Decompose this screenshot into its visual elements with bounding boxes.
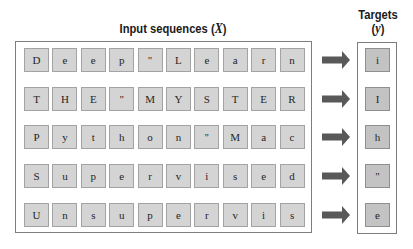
targets-title-variable-line: (y): [350, 22, 407, 36]
input-char-cell: r: [194, 203, 219, 227]
input-char-cell: n: [52, 203, 77, 227]
target-rows: iIh''e: [365, 48, 396, 227]
input-char-cell: e: [194, 48, 219, 72]
input-sequence-row: Deep''Learn: [24, 48, 305, 72]
input-sequence-row: Supervised: [24, 164, 305, 188]
input-char-cell: '': [109, 87, 134, 111]
input-char-cell: p: [138, 203, 163, 227]
input-sequences-box: Deep''LearnTHE''MYSTERPython''MacSupervi…: [15, 41, 312, 233]
input-char-cell: U: [24, 203, 49, 227]
input-char-cell: S: [24, 164, 49, 188]
input-sequence-rows: Deep''LearnTHE''MYSTERPython''MacSupervi…: [24, 48, 305, 227]
input-char-cell: v: [223, 203, 248, 227]
input-char-cell: r: [138, 164, 163, 188]
input-sequence-row: Python''Mac: [24, 125, 305, 149]
input-char-cell: D: [24, 48, 49, 72]
input-char-cell: L: [166, 48, 191, 72]
input-char-cell: M: [138, 87, 163, 111]
input-char-cell: e: [81, 48, 106, 72]
input-char-cell: E: [81, 87, 106, 111]
right-arrow-icon: [322, 167, 350, 185]
target-row: '': [365, 164, 396, 188]
right-arrow-icon: [322, 90, 350, 108]
input-sequences-title: Input sequences (X): [106, 21, 240, 37]
input-char-cell: t: [81, 125, 106, 149]
input-title-prefix: Input sequences (: [120, 21, 215, 36]
input-char-cell: c: [280, 125, 305, 149]
target-char-cell: I: [365, 87, 390, 111]
input-char-cell: R: [280, 87, 305, 111]
input-char-cell: e: [166, 203, 191, 227]
input-char-cell: M: [223, 125, 248, 149]
input-char-cell: e: [109, 164, 134, 188]
input-char-cell: p: [109, 48, 134, 72]
input-char-cell: n: [280, 48, 305, 72]
input-char-cell: d: [280, 164, 305, 188]
target-row: I: [365, 87, 396, 111]
input-char-cell: v: [166, 164, 191, 188]
input-char-cell: '': [138, 48, 163, 72]
input-char-cell: P: [24, 125, 49, 149]
arrow-column: [322, 51, 350, 224]
input-sequence-row: Unsupervis: [24, 203, 305, 227]
input-char-cell: H: [52, 87, 77, 111]
input-char-cell: u: [52, 164, 77, 188]
input-char-cell: E: [251, 87, 276, 111]
input-char-cell: s: [223, 164, 248, 188]
targets-title: Targets (y): [350, 8, 407, 36]
input-char-cell: Y: [166, 87, 191, 111]
target-row: e: [365, 203, 396, 227]
input-title-variable: X: [215, 21, 223, 36]
input-char-cell: p: [81, 164, 106, 188]
input-char-cell: h: [109, 125, 134, 149]
input-char-cell: '': [194, 125, 219, 149]
right-arrow-icon: [322, 128, 350, 146]
target-char-cell: e: [365, 203, 390, 227]
targets-title-suffix: ): [381, 21, 385, 36]
input-char-cell: u: [109, 203, 134, 227]
target-char-cell: '': [365, 164, 390, 188]
input-char-cell: s: [280, 203, 305, 227]
target-row: i: [365, 48, 396, 72]
right-arrow-icon: [322, 206, 350, 224]
input-char-cell: a: [223, 48, 248, 72]
input-char-cell: o: [138, 125, 163, 149]
input-char-cell: e: [52, 48, 77, 72]
input-char-cell: s: [81, 203, 106, 227]
input-char-cell: S: [194, 87, 219, 111]
input-char-cell: T: [223, 87, 248, 111]
input-char-cell: e: [251, 164, 276, 188]
input-char-cell: y: [52, 125, 77, 149]
input-sequence-row: THE''MYSTER: [24, 87, 305, 111]
input-char-cell: n: [166, 125, 191, 149]
input-char-cell: a: [251, 125, 276, 149]
input-char-cell: i: [251, 203, 276, 227]
target-char-cell: h: [365, 125, 390, 149]
target-char-cell: i: [365, 48, 390, 72]
right-arrow-icon: [322, 51, 350, 69]
input-title-suffix: ): [223, 21, 227, 36]
targets-title-label: Targets: [350, 8, 407, 22]
input-char-cell: i: [194, 164, 219, 188]
targets-box: iIh''e: [357, 42, 397, 234]
input-char-cell: T: [24, 87, 49, 111]
target-row: h: [365, 125, 396, 149]
input-char-cell: r: [251, 48, 276, 72]
